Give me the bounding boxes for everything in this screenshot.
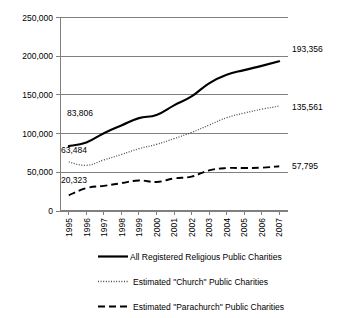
value-annotations: 83,806 63,484 20,323 193,356 135,561 57,… bbox=[61, 44, 323, 185]
annotation-end-parachurch: 57,795 bbox=[292, 161, 318, 171]
y-tick-label-0: 0 bbox=[48, 206, 53, 216]
y-tick-label-200000: 200,000 bbox=[22, 51, 53, 61]
annotation-end-all: 193,356 bbox=[292, 44, 323, 54]
legend-item-all-registered[interactable]: All Registered Religious Public Charitie… bbox=[98, 252, 282, 262]
legend-label-all-registered: All Registered Religious Public Charitie… bbox=[130, 252, 282, 262]
chart-legend: All Registered Religious Public Charitie… bbox=[98, 252, 284, 312]
x-tick-label-2006: 2006 bbox=[257, 218, 267, 237]
x-tick-label-2003: 2003 bbox=[204, 218, 214, 237]
x-tick-label-1996: 1996 bbox=[82, 218, 92, 237]
data-series bbox=[69, 61, 279, 195]
y-axis-labels: 250,000 200,000 150,000 100,000 50,000 0 bbox=[22, 13, 53, 217]
series-line-estimated-parachurch bbox=[69, 166, 279, 195]
x-tick-label-2001: 2001 bbox=[169, 218, 179, 237]
x-tick-label-2007: 2007 bbox=[274, 218, 284, 237]
annotation-start-parachurch: 20,323 bbox=[61, 175, 87, 185]
x-tick-label-1999: 1999 bbox=[134, 218, 144, 237]
x-tick-label-2002: 2002 bbox=[187, 218, 197, 237]
axes bbox=[60, 18, 288, 212]
annotation-start-all: 83,806 bbox=[67, 108, 93, 118]
x-tick-label-1998: 1998 bbox=[117, 218, 127, 237]
y-tick-marks bbox=[56, 18, 60, 212]
x-tick-marks bbox=[69, 211, 279, 215]
y-tick-label-100000: 100,000 bbox=[22, 129, 53, 139]
x-axis-labels: 1995 1996 1997 1998 1999 2000 2001 2002 … bbox=[64, 218, 284, 237]
y-tick-label-50000: 50,000 bbox=[27, 167, 53, 177]
x-tick-label-2000: 2000 bbox=[152, 218, 162, 237]
y-tick-label-150000: 150,000 bbox=[22, 90, 53, 100]
x-tick-label-1997: 1997 bbox=[99, 218, 109, 237]
annotation-start-church: 63,484 bbox=[61, 145, 87, 155]
legend-item-estimated-church[interactable]: Estimated "Church" Public Charities bbox=[98, 277, 268, 287]
x-tick-label-2005: 2005 bbox=[239, 218, 249, 237]
line-chart: 250,000 200,000 150,000 100,000 50,000 0 bbox=[0, 0, 351, 318]
legend-item-estimated-parachurch[interactable]: Estimated "Parachurch" Public Charities bbox=[98, 302, 284, 312]
legend-label-estimated-church: Estimated "Church" Public Charities bbox=[133, 277, 268, 287]
chart-container: 250,000 200,000 150,000 100,000 50,000 0 bbox=[0, 0, 351, 318]
annotation-end-church: 135,561 bbox=[292, 102, 323, 112]
y-tick-label-250000: 250,000 bbox=[22, 13, 53, 23]
gridlines bbox=[60, 18, 288, 173]
x-tick-label-1995: 1995 bbox=[64, 218, 74, 237]
x-tick-label-2004: 2004 bbox=[222, 218, 232, 237]
legend-label-estimated-parachurch: Estimated "Parachurch" Public Charities bbox=[133, 302, 284, 312]
